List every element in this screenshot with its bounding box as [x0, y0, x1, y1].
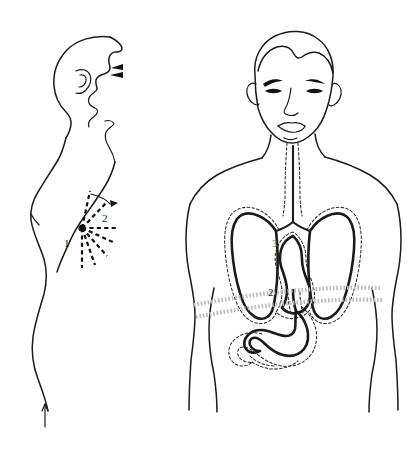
torso-label-3: 3 — [272, 238, 277, 249]
torso-label-2: 2 — [268, 286, 274, 298]
pain-origin-dot — [78, 224, 85, 231]
medical-illustration: 1 2 — [0, 0, 410, 453]
torso-label-1: 1 — [293, 308, 299, 320]
background — [0, 0, 410, 453]
profile-label-2: 2 — [102, 212, 108, 224]
profile-label-1: 1 — [64, 237, 70, 249]
illustration-canvas: 1 2 — [0, 0, 410, 453]
